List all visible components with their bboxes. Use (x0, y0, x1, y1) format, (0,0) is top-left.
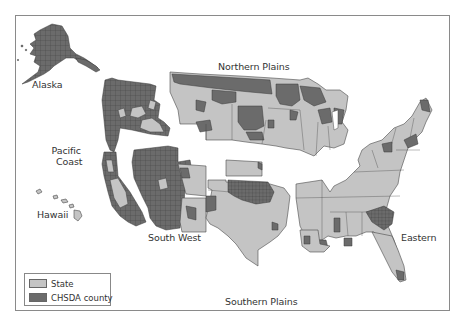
label-hawaii: Hawaii (37, 210, 68, 221)
legend-item-state: State (29, 278, 74, 289)
label-pacific-coast-line2: Coast (50, 157, 82, 168)
label-pacific-coast: Pacific Coast (50, 146, 82, 168)
state-swatch-icon (29, 279, 47, 288)
legend-label-state: State (51, 279, 74, 289)
legend-label-chsda-county: CHSDA county (51, 293, 113, 303)
region-alaska (17, 24, 100, 84)
label-northern-plains: Northern Plains (218, 62, 290, 73)
label-alaska: Alaska (32, 80, 62, 91)
map-legend: State CHSDA county (24, 273, 111, 306)
label-eastern: Eastern (401, 233, 436, 244)
legend-item-chsda-county: CHSDA county (29, 292, 113, 303)
region-northern-plains (170, 72, 348, 156)
county-swatch-icon (29, 293, 47, 302)
label-southern-plains: Southern Plains (225, 297, 298, 308)
region-southern-plains (206, 160, 290, 266)
label-south-west: South West (148, 233, 201, 244)
